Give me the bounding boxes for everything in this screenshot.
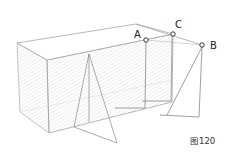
point-b [200,43,204,47]
point-c [171,32,175,36]
box-diagram [0,0,230,158]
label-c: C [175,20,182,30]
point-a [144,38,148,42]
label-b: B [210,41,217,51]
label-a: A [134,30,141,40]
figure-caption: 图120 [190,137,215,146]
